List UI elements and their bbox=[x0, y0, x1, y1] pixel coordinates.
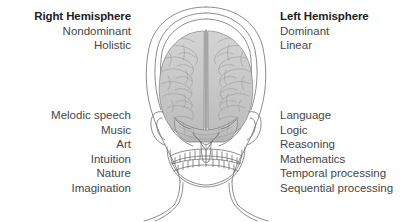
left-hemisphere-attributes-group: Left Hemisphere Dominant Linear bbox=[280, 9, 417, 53]
right-hemisphere-attribute-0: Nondominant bbox=[0, 24, 131, 39]
right-hemisphere-function-0: Melodic speech bbox=[0, 108, 131, 123]
frontal-head-anatomy-illustration bbox=[131, 0, 281, 222]
right-hemisphere-function-2: Art bbox=[0, 137, 131, 152]
left-hemisphere-function-0: Language bbox=[280, 108, 417, 123]
right-hemisphere-function-1: Music bbox=[0, 123, 131, 138]
lower-teeth bbox=[172, 159, 240, 172]
right-hemisphere-function-3: Intuition bbox=[0, 152, 131, 167]
left-hemisphere-function-4: Temporal processing bbox=[280, 166, 417, 181]
brain bbox=[159, 30, 253, 136]
right-hemisphere-attribute-1: Holistic bbox=[0, 38, 131, 53]
right-hemisphere-function-4: Nature bbox=[0, 166, 131, 181]
right-hemisphere-functions-group: Melodic speech Music Art Intuition Natur… bbox=[0, 108, 131, 196]
right-hemisphere-attributes-group: Right Hemisphere Nondominant Holistic bbox=[0, 9, 131, 53]
right-hemisphere-function-5: Imagination bbox=[0, 181, 131, 196]
left-hemisphere-function-1: Logic bbox=[280, 123, 417, 138]
left-hemisphere-heading: Left Hemisphere bbox=[280, 9, 417, 24]
right-hemisphere-heading: Right Hemisphere bbox=[0, 9, 131, 24]
left-hemisphere-function-5: Sequential processing bbox=[280, 181, 417, 196]
shoulders bbox=[144, 204, 268, 221]
left-hemisphere-attribute-1: Linear bbox=[280, 38, 417, 53]
left-hemisphere-function-2: Reasoning bbox=[280, 137, 417, 152]
left-hemisphere-attribute-0: Dominant bbox=[280, 24, 417, 39]
left-hemisphere-function-3: Mathematics bbox=[280, 152, 417, 167]
figure-canvas: Right Hemisphere Nondominant Holistic Me… bbox=[0, 0, 417, 222]
left-hemisphere-functions-group: Language Logic Reasoning Mathematics Tem… bbox=[280, 108, 417, 196]
